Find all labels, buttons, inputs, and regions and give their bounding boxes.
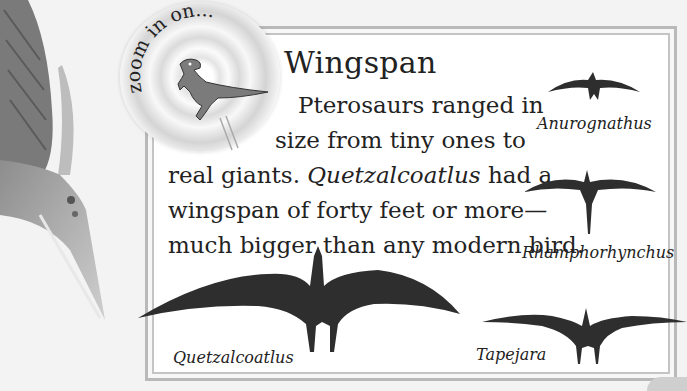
anurognathus-silhouette xyxy=(548,72,640,102)
dinosaur-icon xyxy=(178,59,268,120)
zoom-in-on-badge: zoom in on... xyxy=(120,2,280,152)
species-name-emphasis: Quetzalcoatlus xyxy=(307,162,480,188)
section-title: Wingspan xyxy=(284,45,437,80)
paragraph-line-2: size from tiny ones to xyxy=(275,123,526,158)
book-page: zoom in on... Wingspan Pterosaurs ranged… xyxy=(0,0,687,391)
label-rhamphorhynchus: Rhamphorhynchus xyxy=(522,243,674,262)
badge-art: zoom in on... xyxy=(120,2,280,152)
paragraph-line-4: wingspan of forty feet or more— xyxy=(168,193,547,228)
paragraph-line-3: real giants. Quetzalcoatlus had a xyxy=(168,158,552,193)
quetzalcoatlus-silhouette xyxy=(138,246,460,356)
rhamphorhynchus-silhouette xyxy=(524,170,656,234)
page-corner-tab xyxy=(647,377,687,391)
label-tapejara: Tapejara xyxy=(476,345,546,364)
label-quetzalcoatlus: Quetzalcoatlus xyxy=(173,348,294,367)
paragraph-text: real giants. xyxy=(168,162,307,188)
paragraph-line-1: Pterosaurs ranged in xyxy=(298,88,544,123)
label-anurognathus: Anurognathus xyxy=(537,114,652,133)
